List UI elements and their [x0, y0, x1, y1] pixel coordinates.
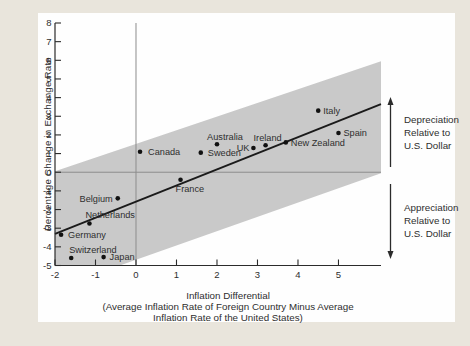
x-axis-subtitle-line1: (Average Inflation Rate of Foreign Count…	[58, 302, 398, 313]
data-point-spain	[336, 131, 341, 136]
depreciation-line3: U.S. Dollar	[404, 139, 459, 152]
depreciation-line1: Depreciation	[404, 113, 459, 126]
data-point-switzerland	[69, 256, 74, 261]
data-point-label-france: France	[176, 184, 205, 194]
depreciation-line2: Relative to	[404, 126, 459, 139]
y-tick-label: 8	[46, 17, 51, 28]
data-point-ireland	[263, 143, 268, 148]
depreciation-arrowhead-icon	[388, 97, 394, 105]
y-axis-title: Percentage Change in Exchange Rate	[42, 57, 53, 231]
appreciation-line1: Appreciation	[404, 201, 458, 214]
x-tick-label: 4	[295, 269, 300, 280]
data-point-label-japan: Japan	[110, 252, 135, 262]
data-point-label-ireland: Ireland	[254, 133, 282, 143]
data-point-australia	[215, 142, 220, 147]
data-point-sweden	[198, 150, 203, 155]
data-point-japan	[101, 255, 106, 260]
data-point-canada	[138, 149, 143, 154]
data-point-label-canada: Canada	[148, 147, 181, 157]
appreciation-annotation: Appreciation Relative to U.S. Dollar	[404, 201, 458, 240]
data-point-label-belgium: Belgium	[80, 194, 114, 204]
y-tick-label: 7	[46, 36, 51, 47]
x-tick-label: 0	[133, 269, 138, 280]
depreciation-annotation: Depreciation Relative to U.S. Dollar	[404, 113, 459, 152]
y-tick-label: -4	[43, 241, 51, 252]
appreciation-line2: Relative to	[404, 214, 458, 227]
figure: 876543210-1-2-3-4-5-2-1012345CanadaSwede…	[0, 0, 470, 346]
data-point-label-spain: Spain	[343, 128, 367, 138]
data-point-germany	[59, 232, 64, 237]
x-tick-label: 1	[174, 269, 179, 280]
data-point-label-uk: UK	[237, 143, 251, 153]
x-tick-label: -2	[51, 269, 59, 280]
x-tick-label: 2	[214, 269, 219, 280]
x-tick-label: -1	[91, 269, 99, 280]
data-point-new-zealand	[284, 140, 289, 145]
x-axis-title-block: Inflation Differential (Average Inflatio…	[58, 291, 398, 323]
appreciation-line3: U.S. Dollar	[404, 227, 458, 240]
data-point-label-australia: Australia	[207, 132, 244, 142]
x-tick-label: 3	[255, 269, 260, 280]
data-point-italy	[316, 108, 321, 113]
data-point-label-new-zealand: New Zealand	[291, 138, 345, 148]
x-tick-label: 5	[336, 269, 341, 280]
appreciation-arrowhead-icon	[388, 251, 394, 259]
data-point-belgium	[115, 196, 120, 201]
data-point-label-netherlands: Netherlands	[85, 210, 135, 220]
data-point-label-italy: Italy	[323, 106, 340, 116]
data-point-label-germany: Germany	[68, 230, 106, 240]
data-point-france	[178, 177, 183, 182]
x-axis-subtitle-line2: Inflation Rate of the United States)	[58, 313, 398, 324]
data-point-uk	[251, 146, 256, 151]
data-point-netherlands	[87, 221, 92, 226]
